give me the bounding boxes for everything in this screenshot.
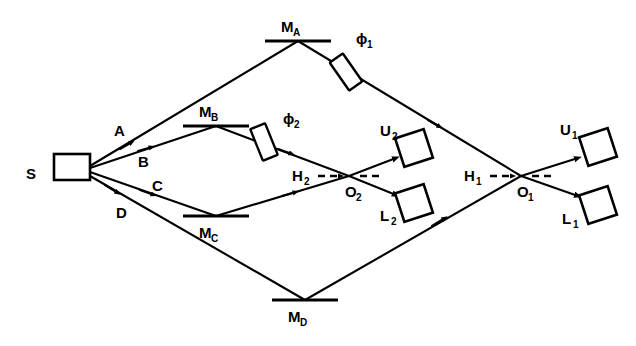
o1-sub: 1 xyxy=(528,192,534,203)
ray-label-a: A xyxy=(114,122,125,139)
beam-o2-to-u2 xyxy=(349,158,396,176)
phi1-sub: 1 xyxy=(367,39,373,50)
arrow-mb-o2 xyxy=(278,149,292,154)
mirror-md-label: M xyxy=(288,308,301,325)
mirror-md-sub: D xyxy=(300,317,307,328)
phase-shifter-phi2 xyxy=(250,123,278,161)
h1-label: H xyxy=(464,167,475,184)
mirror-ma-label: M xyxy=(281,18,294,35)
detector-l1 xyxy=(579,186,617,224)
h2-sub: 2 xyxy=(304,176,310,187)
arrow-md-o1 xyxy=(432,218,445,226)
phi2-label: ϕ xyxy=(283,110,294,127)
detector-u2-sub: 2 xyxy=(392,131,398,142)
arrow-mc-o2 xyxy=(282,192,296,196)
interferometer-figure: S M A M B M C M D ϕ 1 ϕ 2 H 2 O 2 xyxy=(0,0,636,346)
ray-label-c: C xyxy=(152,177,163,194)
phi1-label: ϕ xyxy=(356,30,367,47)
arrow-ray-d xyxy=(105,185,118,193)
mirror-mb-label: M xyxy=(199,103,212,120)
ray-label-b: B xyxy=(138,153,149,170)
detector-l1-sub: 1 xyxy=(573,219,579,230)
source-box xyxy=(54,154,90,180)
arrow-ma-o1 xyxy=(428,120,440,127)
detector-l2-label: L xyxy=(380,207,389,224)
mirror-labels: M A M B M C M D xyxy=(199,18,307,328)
arrow-ray-a xyxy=(120,142,132,149)
ray-label-d: D xyxy=(116,204,127,221)
source-label: S xyxy=(26,165,36,182)
diagram-canvas: S M A M B M C M D ϕ 1 ϕ 2 H 2 O 2 xyxy=(0,0,636,346)
beam-ray-d xyxy=(90,176,305,300)
detector-u1 xyxy=(579,128,617,166)
mirror-mc-sub: C xyxy=(211,233,218,244)
detectors: U 2 L 2 U 1 L 1 xyxy=(380,121,617,230)
detector-l2 xyxy=(395,184,433,222)
detector-l1-label: L xyxy=(562,210,571,227)
mirror-mb-sub: B xyxy=(211,112,218,123)
mirror-ma-sub: A xyxy=(293,27,300,38)
detector-l2-sub: 2 xyxy=(391,216,397,227)
mirror-mc-label: M xyxy=(199,224,212,241)
detector-u2-label: U xyxy=(380,122,391,139)
detector-u1-label: U xyxy=(560,121,571,138)
h1-sub: 1 xyxy=(476,176,482,187)
phi2-sub: 2 xyxy=(294,119,300,130)
detector-u1-sub: 1 xyxy=(572,130,578,141)
detector-u2 xyxy=(395,129,433,167)
phase-shifter-phi1 xyxy=(330,53,363,90)
beam-o1-to-u1 xyxy=(521,158,578,176)
h2-label: H xyxy=(292,167,303,184)
o2-sub: 2 xyxy=(356,192,362,203)
